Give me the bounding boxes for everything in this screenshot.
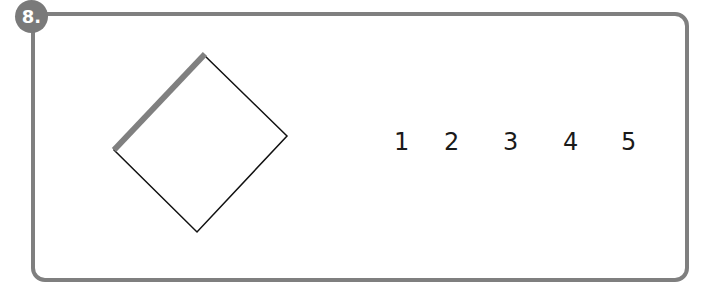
option-2[interactable]: 2 <box>444 128 459 156</box>
highlighted-edge <box>114 54 205 150</box>
option-3[interactable]: 3 <box>503 128 518 156</box>
answer-options: 1 2 3 4 5 <box>380 128 680 158</box>
option-4[interactable]: 4 <box>563 128 578 156</box>
option-1[interactable]: 1 <box>394 128 409 156</box>
option-5[interactable]: 5 <box>621 128 636 156</box>
